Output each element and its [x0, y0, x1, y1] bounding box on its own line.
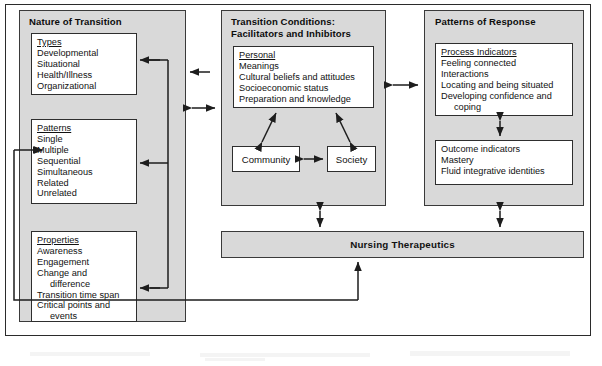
box-patterns-item: Related — [37, 178, 132, 189]
box-properties: Properties Awareness Engagement Change a… — [31, 231, 137, 322]
box-properties-item: Critical points and — [37, 300, 132, 311]
scan-artifact — [410, 351, 570, 356]
box-patterns-item: Single — [37, 134, 132, 145]
scan-artifact — [200, 353, 370, 357]
box-properties-item: Transition time span — [37, 290, 132, 301]
diagram-canvas: Nature of Transition Types Developmental… — [0, 0, 602, 366]
box-process-indicators-item: Feeling connected — [441, 58, 568, 69]
panel-nature-title: Nature of Transition — [29, 16, 179, 28]
box-types-item: Situational — [37, 59, 132, 70]
box-types-heading: Types — [37, 37, 132, 48]
box-society-label: Society — [336, 154, 367, 165]
box-properties-item: Engagement — [37, 257, 132, 268]
panel-transition-conditions — [221, 10, 386, 206]
box-types-item: Health/Illness — [37, 70, 132, 81]
box-process-indicators-item: Interactions — [441, 69, 568, 80]
box-personal-item: Cultural beliefs and attitudes — [239, 72, 369, 83]
box-process-indicators-item: Developing confidence and — [441, 91, 568, 102]
scan-artifact — [30, 352, 150, 356]
box-outcome-indicators-item: Mastery — [441, 155, 568, 166]
box-process-indicators: Process Indicators Feeling connected Int… — [435, 43, 573, 116]
box-properties-item: Awareness — [37, 246, 132, 257]
box-personal-item: Meanings — [239, 61, 369, 72]
box-personal-heading: Personal — [239, 50, 369, 61]
box-patterns: Patterns Single Multiple Sequential Simu… — [31, 119, 137, 204]
box-process-indicators-item: coping — [441, 102, 568, 113]
panel-conditions-title: Transition Conditions: Facilitators and … — [231, 16, 383, 39]
box-process-indicators-item: Locating and being situated — [441, 80, 568, 91]
box-outcome-indicators-item: Fluid integrative identities — [441, 166, 568, 177]
box-types: Types Developmental Situational Health/I… — [31, 33, 137, 95]
box-personal-item: Socioeconomic status — [239, 83, 369, 94]
box-patterns-item: Sequential — [37, 156, 132, 167]
box-personal-item: Preparation and knowledge — [239, 94, 369, 105]
box-properties-item: Change and — [37, 268, 132, 279]
nursing-therapeutics-label: Nursing Therapeutics — [350, 239, 455, 250]
box-patterns-heading: Patterns — [37, 123, 132, 134]
box-community: Community — [232, 146, 300, 172]
box-properties-heading: Properties — [37, 235, 132, 246]
panel-response-title: Patterns of Response — [435, 16, 585, 28]
box-outcome-indicators: Outcome indicators Mastery Fluid integra… — [435, 140, 573, 185]
box-process-indicators-heading: Process Indicators — [441, 47, 568, 58]
box-types-item: Organizational — [37, 81, 132, 92]
nursing-therapeutics-bar: Nursing Therapeutics — [221, 231, 584, 258]
box-society: Society — [327, 146, 376, 172]
box-personal: Personal Meanings Cultural beliefs and a… — [233, 46, 374, 108]
box-outcome-indicators-heading: Outcome indicators — [441, 144, 568, 155]
box-properties-item: difference — [37, 279, 132, 290]
scan-artifact — [205, 358, 265, 361]
box-types-item: Developmental — [37, 48, 132, 59]
box-patterns-item: Unrelated — [37, 188, 132, 199]
box-properties-item: events — [37, 311, 132, 322]
box-patterns-item: Multiple — [37, 145, 132, 156]
box-patterns-item: Simultaneous — [37, 167, 132, 178]
box-community-label: Community — [242, 154, 291, 165]
